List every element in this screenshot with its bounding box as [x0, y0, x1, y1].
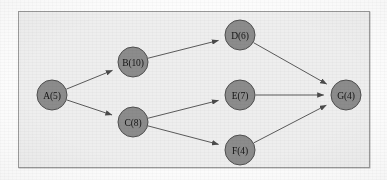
- node-f: F(4): [225, 135, 255, 165]
- edge-d-to-g: [253, 43, 326, 84]
- node-a: A(5): [37, 80, 67, 110]
- node-g-label: G(4): [337, 91, 355, 102]
- node-d: D(6): [225, 20, 255, 50]
- node-e: E(7): [225, 80, 255, 110]
- node-d-label: D(6): [231, 31, 249, 42]
- edge-b-to-d: [148, 40, 218, 58]
- edge-c-to-e: [148, 100, 218, 118]
- node-layer: A(5)B(10)C(8)D(6)E(7)F(4)G(4): [37, 20, 361, 165]
- edge-a-to-b: [66, 70, 112, 89]
- node-b-label: B(10): [122, 58, 144, 69]
- edge-c-to-f: [148, 126, 219, 144]
- edge-f-to-g: [254, 105, 327, 143]
- edge-layer: [66, 40, 326, 144]
- node-c-label: C(8): [124, 118, 141, 129]
- node-a-label: A(5): [43, 91, 61, 102]
- edge-a-to-c: [67, 100, 112, 115]
- node-g: G(4): [331, 80, 361, 110]
- node-b: B(10): [118, 47, 148, 77]
- graph-canvas: A(5)B(10)C(8)D(6)E(7)F(4)G(4): [0, 0, 387, 180]
- node-f-label: F(4): [232, 146, 248, 157]
- node-c: C(8): [118, 107, 148, 137]
- node-e-label: E(7): [232, 91, 248, 102]
- figure-screenshot: A(5)B(10)C(8)D(6)E(7)F(4)G(4): [0, 0, 387, 180]
